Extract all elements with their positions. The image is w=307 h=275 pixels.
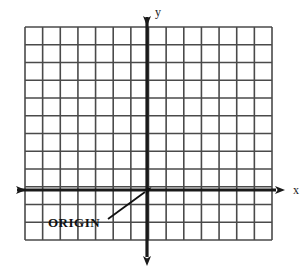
figure-canvas <box>0 0 307 275</box>
coordinate-grid-figure: y x ORIGIN <box>0 0 307 275</box>
origin-annotation-label: ORIGIN <box>48 216 100 229</box>
x-axis-label: x <box>293 184 299 196</box>
y-axis-label: y <box>155 6 161 18</box>
